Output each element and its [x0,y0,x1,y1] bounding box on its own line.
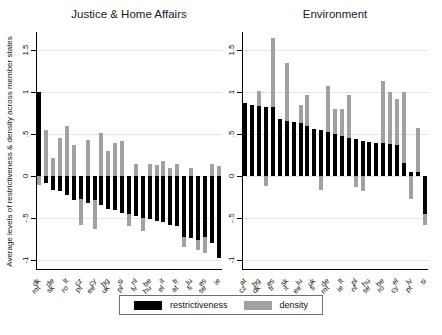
bar-density-pl [354,176,358,187]
bar-restrictiveness-fr [175,176,179,226]
bar-restrictiveness-lu [189,176,193,238]
y-tick-label: 1 [227,90,236,94]
bar-density-dk [37,176,41,184]
bar-density-be [148,164,152,177]
gridline [37,50,222,51]
bar-restrictiveness-cy [93,176,97,199]
figure: Average levels of restrictiveness & dens… [0,0,442,335]
bar-restrictiveness-pt [416,172,420,176]
bar-density-pt [416,128,420,177]
bar-restrictiveness-be [381,143,385,176]
bar-restrictiveness-el [168,176,172,225]
bar-restrictiveness-ro [72,176,76,199]
bar-restrictiveness-el [395,145,399,176]
bar-restrictiveness-de [326,132,330,176]
bar-density-nl [134,164,138,177]
bar-restrictiveness-lt [340,136,344,176]
plot-area-justice-home-affairs: 1.51.50-.5-1 [36,32,222,270]
legend-entry-density: density [243,300,308,310]
bar-density-fi [319,176,323,190]
bar-restrictiveness-be [148,176,152,219]
bar-density-nl [361,176,365,191]
bar-density-mt [44,130,48,176]
bar-restrictiveness-es [203,176,207,237]
bar-restrictiveness-nl [361,141,365,176]
bar-restrictiveness-es [271,107,275,176]
panel-title-justice-home-affairs: Justice & Home Affairs [36,8,222,20]
bar-restrictiveness-fi [319,130,323,176]
bar-restrictiveness-se [374,143,378,177]
bar-density-uk [113,143,117,177]
bar-restrictiveness-cz [250,105,254,176]
bar-restrictiveness-lv [409,172,413,176]
bar-restrictiveness-cy [402,163,406,176]
bar-restrictiveness-uk [113,176,117,210]
x-axis-line [242,269,428,270]
plot-area-environment: 1.51.50-.5-1 [242,32,428,270]
bar-restrictiveness-fr [278,119,282,176]
bar-density-bg [106,151,110,176]
bar-restrictiveness-bg [106,176,110,209]
bar-restrictiveness-ie [217,176,221,258]
y-tick-label: -.5 [227,213,236,222]
panel-title-environment: Environment [242,8,428,20]
y-tick-label: -1 [227,256,236,263]
legend: restrictiveness density [119,295,323,315]
bar-restrictiveness-dk [37,92,41,176]
y-tick-label: -1 [21,256,30,263]
bar-restrictiveness-bg [257,106,261,176]
bar-density-ee [99,133,103,177]
y-tick-label: -.5 [21,213,30,222]
bar-restrictiveness-hu [367,142,371,176]
gridline [37,260,222,261]
bar-density-fr [175,164,179,177]
y-axis-line [242,32,243,270]
x-axis-line [36,269,222,270]
bar-density-it [161,161,165,176]
x-label-ie: ie [204,276,222,294]
bar-restrictiveness-lu [299,123,303,176]
restrictiveness-swatch [134,301,162,310]
bar-restrictiveness-at [182,176,186,237]
bar-restrictiveness-it [292,122,296,176]
y-axis-line [36,32,37,270]
bar-restrictiveness-si [120,176,124,213]
y-tick-label: 1 [21,90,30,94]
y-tick-label: 0 [21,174,30,178]
bar-restrictiveness-lt [65,176,69,194]
bar-restrictiveness-fi [196,176,200,240]
gridline [243,260,428,261]
bar-restrictiveness-pl [354,139,358,176]
bar-density-pt [86,140,90,176]
bar-restrictiveness-si [423,176,427,214]
bar-density-si [120,141,124,176]
bar-restrictiveness-pt [86,176,90,203]
bar-density-sk [58,138,62,176]
bar-density-lv [409,176,413,199]
gridline [243,176,428,177]
y-tick-label: 0 [227,174,236,178]
bar-restrictiveness-ro [388,144,392,176]
bar-restrictiveness-ee [99,176,103,205]
bar-restrictiveness-dk [264,107,268,177]
legend-label-restrictiveness: restrictiveness [170,300,228,310]
y-tick-label: 1.5 [227,45,236,56]
bar-density-lu [189,168,193,176]
bar-restrictiveness-it [161,176,165,222]
bar-restrictiveness-de [51,176,55,189]
bar-density-ro [72,145,76,176]
gridline [243,218,428,219]
bar-restrictiveness-lv [141,176,145,218]
bar-restrictiveness-mt [333,134,337,176]
legend-entry-restrictiveness: restrictiveness [134,300,228,310]
bar-restrictiveness-uk [312,129,316,176]
bar-restrictiveness-sk [285,121,289,176]
bar-density-dk [264,176,268,186]
bar-restrictiveness-hu [155,176,159,220]
bar-density-de [51,158,55,176]
y-axis-title: Average levels of restrictiveness & dens… [5,2,16,302]
bar-density-lt [65,126,69,176]
density-swatch [243,301,271,310]
gridline [37,92,222,93]
bar-restrictiveness-se [210,176,214,243]
